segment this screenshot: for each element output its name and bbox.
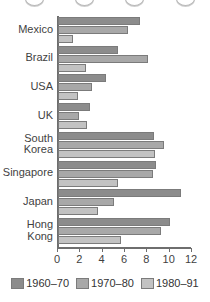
x-axis-tick [169, 248, 170, 252]
bar-group: Japan [0, 189, 210, 218]
legend-label: 1970–80 [91, 277, 134, 289]
bar [58, 189, 181, 197]
x-axis-tick [79, 248, 80, 252]
bar [58, 150, 155, 158]
bar [58, 103, 90, 111]
bar [58, 207, 98, 215]
x-axis-tick-label: 4 [90, 253, 114, 266]
bar-chart: 024681012 MexicoBrazilUSAUKSouth KoreaSi… [0, 12, 210, 257]
bar [58, 55, 148, 63]
legend-label: 1980–91 [156, 277, 199, 289]
legend-swatch-icon [11, 278, 24, 289]
bars-container [58, 132, 164, 159]
bar-group: USA [0, 74, 210, 103]
bar [58, 227, 161, 235]
punch-hole-icon [125, 0, 144, 6]
legend-item: 1980–91 [141, 277, 199, 289]
bar [58, 35, 73, 43]
bars-container [58, 46, 148, 73]
category-label: Mexico [0, 24, 53, 36]
bar [58, 179, 118, 187]
bars-container [58, 189, 181, 216]
category-label: Hong Kong [0, 219, 53, 242]
chart-legend: 1960–701970–801980–91 [0, 272, 210, 294]
category-label: Japan [0, 196, 53, 208]
bar [58, 112, 79, 120]
x-axis-tick [102, 248, 103, 252]
bar-group: UK [0, 102, 210, 131]
x-axis-tick-label: 6 [112, 253, 136, 266]
bar-group: Brazil [0, 45, 210, 74]
bar [58, 132, 154, 140]
x-axis-tick [191, 248, 192, 252]
bars-container [58, 103, 90, 130]
bars-container [58, 218, 170, 245]
category-label: Singapore [0, 167, 53, 179]
x-axis-tick-label: 12 [179, 253, 203, 266]
x-axis-tick-label: 8 [134, 253, 158, 266]
legend-swatch-icon [76, 278, 89, 289]
bar [58, 74, 106, 82]
bar [58, 218, 170, 226]
bar [58, 26, 128, 34]
scan-punch-holes [0, 0, 210, 12]
legend-label: 1960–70 [26, 277, 69, 289]
bar [58, 141, 164, 149]
category-label: UK [0, 110, 53, 122]
bar-group: Singapore [0, 160, 210, 189]
legend-swatch-icon [141, 278, 154, 289]
punch-hole-icon [176, 0, 195, 6]
x-axis-tick-label: 0 [45, 253, 69, 266]
bars-container [58, 74, 106, 101]
bar [58, 83, 92, 91]
x-axis-tick-label: 10 [157, 253, 181, 266]
punch-hole-icon [75, 0, 94, 6]
bar [58, 198, 114, 206]
x-axis-tick [146, 248, 147, 252]
category-label: Brazil [0, 52, 53, 64]
x-axis-tick-label: 2 [67, 253, 91, 266]
bar [58, 92, 78, 100]
bar-group: Mexico [0, 16, 210, 45]
bar [58, 161, 156, 169]
legend-item: 1970–80 [76, 277, 134, 289]
x-axis-tick [57, 248, 58, 252]
category-label: USA [0, 81, 53, 93]
x-axis-tick [124, 248, 125, 252]
bar [58, 121, 87, 129]
punch-hole-icon [25, 0, 44, 6]
bar [58, 236, 121, 244]
bars-container [58, 161, 156, 188]
category-label: South Korea [0, 133, 53, 156]
bar-group: Hong Kong [0, 217, 210, 246]
bar-group: South Korea [0, 131, 210, 160]
bar [58, 17, 140, 25]
bar [58, 46, 118, 54]
legend-item: 1960–70 [11, 277, 69, 289]
bar [58, 64, 86, 72]
bars-container [58, 17, 140, 44]
bar [58, 170, 153, 178]
